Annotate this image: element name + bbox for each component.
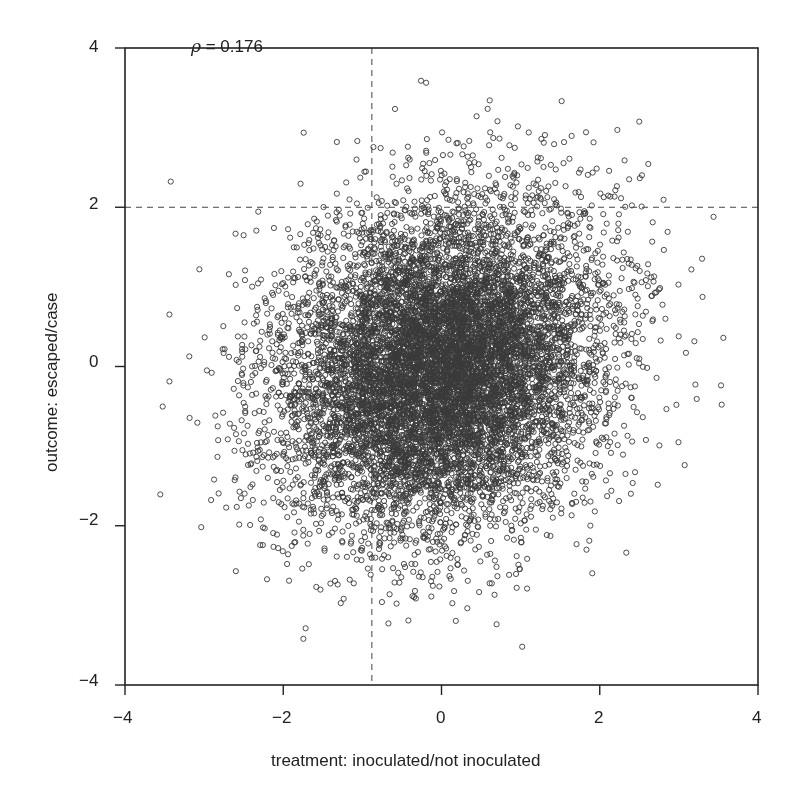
x-tick-label: 2 [594, 708, 603, 728]
y-axis-label: outcome: escaped/case [42, 292, 62, 472]
x-axis-label: treatment: inoculated/not inoculated [271, 751, 540, 771]
correlation-value: = 0.176 [201, 37, 263, 56]
x-tick-label: −4 [113, 708, 132, 728]
y-tick-label: 4 [89, 37, 98, 57]
y-tick-label: −4 [79, 671, 98, 691]
x-tick-label: 4 [752, 708, 761, 728]
y-tick-label: −2 [79, 510, 98, 530]
correlation-annotation: ρ = 0.176 [191, 36, 263, 57]
y-tick-label: 2 [89, 194, 98, 214]
rho-symbol: ρ [191, 36, 201, 56]
x-tick-label: 0 [436, 708, 445, 728]
x-tick-label: −2 [272, 708, 291, 728]
y-tick-label: 0 [89, 352, 98, 372]
scatter-plot-canvas [0, 0, 803, 805]
